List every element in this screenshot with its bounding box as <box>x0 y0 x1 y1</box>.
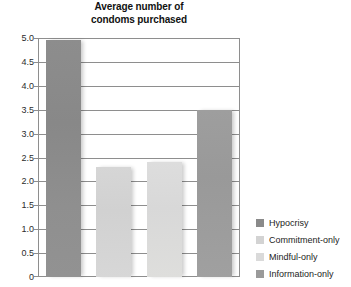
y-axis-tick-label: 1.0 <box>0 225 34 234</box>
bar-fill <box>96 167 131 277</box>
bar-mindful-only <box>147 162 182 277</box>
legend-swatch-icon <box>256 219 264 227</box>
y-axis-tick-label: 1.5 <box>0 201 34 210</box>
bar-fill <box>197 110 232 277</box>
y-axis: 5.04.54.03.53.02.52.01.51.00.50 <box>0 38 34 277</box>
bars-layer <box>38 38 240 277</box>
y-axis-tick-label: 3.0 <box>0 129 34 138</box>
bar-commitment-only <box>96 167 131 277</box>
bar-chart: Average number of condoms purchased 5.04… <box>0 0 351 287</box>
y-axis-tick-label: 5.0 <box>0 34 34 43</box>
y-axis-tick-label: 2.5 <box>0 153 34 162</box>
legend-swatch-icon <box>256 253 264 261</box>
legend-label: Commitment-only <box>269 233 340 247</box>
legend-swatch-icon <box>256 270 264 278</box>
chart-legend: HypocrisyCommitment-onlyMindful-onlyInfo… <box>256 216 351 284</box>
legend-label: Hypocrisy <box>269 216 309 230</box>
y-axis-tick-label: 4.5 <box>0 57 34 66</box>
chart-title: Average number of condoms purchased <box>38 1 240 26</box>
legend-label: Information-only <box>269 267 334 281</box>
y-axis-tick-label: 0.5 <box>0 249 34 258</box>
y-axis-tick-label: 0 <box>0 273 34 282</box>
chart-title-line-1: Average number of <box>38 1 240 14</box>
legend-swatch-icon <box>256 236 264 244</box>
bar-information-only <box>197 110 232 277</box>
legend-item: Information-only <box>256 267 351 284</box>
legend-item: Mindful-only <box>256 250 351 267</box>
legend-label: Mindful-only <box>269 250 318 264</box>
legend-item: Hypocrisy <box>256 216 351 233</box>
bar-hypocrisy <box>46 40 81 277</box>
chart-title-line-2: condoms purchased <box>38 14 240 27</box>
legend-item: Commitment-only <box>256 233 351 250</box>
bar-fill <box>46 40 81 277</box>
y-axis-tick-label: 4.0 <box>0 81 34 90</box>
bar-fill <box>147 162 182 277</box>
y-axis-tick-label: 2.0 <box>0 177 34 186</box>
y-axis-tick-label: 3.5 <box>0 105 34 114</box>
